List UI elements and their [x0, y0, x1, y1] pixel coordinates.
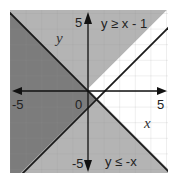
y-tick-neg5: -5 — [72, 156, 84, 171]
inequality-graph: 5 y ≥ x - 1 y -5 0 5 x -5 y ≤ -x — [0, 0, 175, 182]
y-tick-5: 5 — [75, 15, 82, 30]
x-tick-neg5: -5 — [12, 97, 24, 112]
x-axis-label: x — [143, 115, 151, 131]
inequality-label-1: y ≥ x - 1 — [101, 16, 147, 31]
inequality-label-2: y ≤ -x — [105, 154, 137, 169]
origin-label: 0 — [75, 97, 82, 112]
y-axis-label: y — [54, 30, 63, 46]
x-tick-5: 5 — [157, 97, 164, 112]
